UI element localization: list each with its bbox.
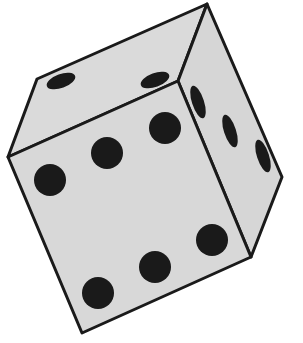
front-pip-2: [91, 137, 123, 169]
front-pip-6: [196, 224, 228, 256]
front-pip-4: [82, 277, 114, 309]
front-pip-1: [34, 164, 66, 196]
front-pip-3: [149, 112, 181, 144]
front-pip-5: [139, 251, 171, 283]
die-illustration: [0, 0, 303, 343]
